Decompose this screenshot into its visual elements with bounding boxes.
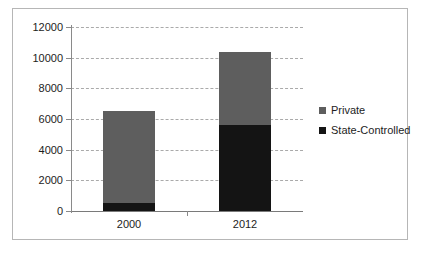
x-axis-tick-label: 2012 (233, 219, 257, 230)
y-axis-tick-labels: 020004000600080001000012000 (13, 9, 63, 241)
plot-area (71, 27, 303, 211)
chart-legend: PrivateState-Controlled (319, 105, 409, 145)
y-axis-tick-label: 8000 (15, 83, 63, 94)
y-axis-tick-mark (66, 119, 72, 120)
y-axis-tick-mark (66, 58, 72, 59)
y-axis-tick-mark (66, 150, 72, 151)
y-axis-tick-mark (66, 27, 72, 28)
y-axis-tick-mark (66, 211, 72, 212)
legend-item[interactable]: State-Controlled (319, 125, 409, 136)
legend-item-label: Private (331, 105, 365, 116)
x-axis-tick-label: 2000 (117, 219, 141, 230)
bar-segment-private[interactable] (103, 111, 155, 203)
bar-segment-state-controlled[interactable] (219, 125, 271, 211)
chart-figure-frame: 020004000600080001000012000 PrivateState… (12, 8, 408, 240)
y-axis-tick-label: 4000 (15, 144, 63, 155)
legend-item-label: State-Controlled (331, 125, 411, 136)
bar-segment-state-controlled[interactable] (103, 203, 155, 211)
legend-swatch-state-controlled (319, 127, 326, 134)
bar-stack[interactable] (103, 27, 155, 211)
y-axis-tick-label: 10000 (15, 52, 63, 63)
y-axis-tick-label: 12000 (15, 22, 63, 33)
legend-item[interactable]: Private (319, 105, 409, 116)
x-axis-tick-mark (187, 211, 188, 216)
y-axis-tick-mark (66, 88, 72, 89)
y-axis-tick-mark (66, 180, 72, 181)
legend-swatch-private (319, 107, 326, 114)
y-axis-tick-label: 6000 (15, 114, 63, 125)
bar-segment-private[interactable] (219, 52, 271, 126)
y-axis-tick-label: 0 (15, 206, 63, 217)
bar-stack[interactable] (219, 27, 271, 211)
y-axis-tick-label: 2000 (15, 175, 63, 186)
